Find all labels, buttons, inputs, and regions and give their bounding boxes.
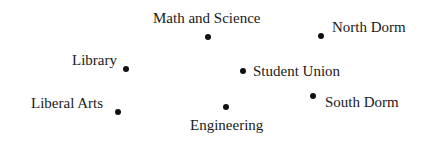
campus-map: Math and Science North Dorm Library Stud… — [0, 0, 431, 141]
location-label-engineering: Engineering — [190, 118, 263, 133]
location-label-math-and-science: Math and Science — [153, 11, 260, 26]
location-dot-liberal-arts — [115, 109, 121, 115]
location-label-student-union: Student Union — [253, 64, 340, 79]
location-dot-library — [123, 66, 129, 72]
location-label-liberal-arts: Liberal Arts — [31, 96, 103, 111]
location-label-library: Library — [72, 53, 117, 68]
location-dot-math-and-science — [205, 34, 211, 40]
location-dot-student-union — [240, 68, 246, 74]
location-dot-engineering — [223, 104, 229, 110]
location-label-north-dorm: North Dorm — [332, 20, 406, 35]
location-dot-south-dorm — [310, 93, 316, 99]
location-label-south-dorm: South Dorm — [325, 95, 399, 110]
location-dot-north-dorm — [318, 33, 324, 39]
